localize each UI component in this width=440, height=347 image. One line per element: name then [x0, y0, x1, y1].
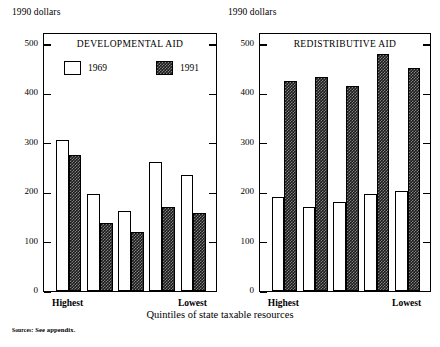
y-tick-mark: [44, 242, 51, 243]
y-tick-mark: [209, 143, 216, 144]
bar-1991-q4: [162, 207, 175, 291]
y-axis-tick-label: 0: [228, 285, 254, 295]
bar-1991-lowest: [408, 68, 421, 291]
bar-1991-q3: [131, 232, 144, 291]
y-tick-mark: [423, 193, 430, 194]
legend-item-1991: 1991: [156, 61, 199, 75]
bar-1991-q2: [100, 223, 113, 291]
bar-1991-lowest: [193, 213, 206, 291]
y-tick-mark: [209, 242, 216, 243]
chart-panel-developmental-aid: DEVELOPMENTAL AID 19691991: [43, 33, 217, 292]
source-note: Sources: See appendix.: [12, 326, 75, 333]
x-category-label: Highest: [33, 298, 103, 308]
bar-1991-highest: [69, 155, 82, 291]
y-axis-tick-label: 0: [12, 285, 38, 295]
figure: 1990 dollars DEVELOPMENTAL AID 19691991 …: [0, 0, 440, 347]
y-axis-units-right: 1990 dollars: [228, 7, 276, 17]
y-tick-mark: [423, 143, 430, 144]
chart-panel-redistributive-aid: REDISTRIBUTIVE AID: [259, 33, 431, 292]
y-axis-tick-label: 200: [12, 186, 38, 196]
y-axis-tick-label: 400: [228, 87, 254, 97]
y-axis-tick-label: 300: [228, 137, 254, 147]
y-axis-tick-label: 500: [12, 38, 38, 48]
y-axis-tick-label: 500: [228, 38, 254, 48]
legend-label: 1991: [180, 63, 199, 73]
y-tick-mark: [44, 193, 51, 194]
y-tick-mark: [44, 94, 51, 95]
legend-label: 1969: [88, 63, 107, 73]
y-axis-tick-label: 100: [228, 236, 254, 246]
chart-title-left: DEVELOPMENTAL AID: [44, 39, 216, 49]
y-tick-mark: [423, 94, 430, 95]
bar-1991-highest: [284, 81, 297, 291]
legend-item-1969: 1969: [64, 61, 107, 75]
y-tick-mark: [423, 242, 430, 243]
y-tick-mark: [209, 44, 216, 45]
y-axis-units-left: 1990 dollars: [12, 7, 60, 17]
legend-swatch-open-white: [64, 61, 81, 75]
y-tick-mark: [260, 44, 267, 45]
bar-1969-highest: [272, 197, 285, 291]
bar-1969-q3: [333, 202, 346, 291]
bar-1991-q4: [377, 54, 390, 291]
y-tick-mark: [44, 44, 51, 45]
legend-swatch-dark-checkered: [156, 61, 173, 75]
source-label: Sources: [12, 327, 31, 333]
y-tick-mark: [260, 291, 267, 292]
bar-1991-q2: [315, 77, 328, 291]
y-tick-mark: [260, 143, 267, 144]
x-axis-title: Quintiles of state taxable resources: [0, 309, 440, 320]
y-axis-tick-label: 100: [12, 236, 38, 246]
bar-1969-highest: [56, 140, 69, 291]
bar-1969-q4: [149, 162, 162, 291]
x-category-label: Highest: [248, 298, 318, 308]
y-axis-tick-label: 200: [228, 186, 254, 196]
bar-1969-lowest: [395, 191, 408, 291]
y-tick-mark: [260, 193, 267, 194]
bar-1991-q3: [346, 86, 359, 291]
y-axis-tick-label: 300: [12, 137, 38, 147]
source-body: : See appendix.: [31, 326, 75, 333]
y-tick-mark: [44, 143, 51, 144]
bar-1969-lowest: [181, 175, 194, 291]
bar-1969-q4: [364, 194, 377, 291]
y-tick-mark: [209, 94, 216, 95]
y-tick-mark: [260, 94, 267, 95]
y-tick-mark: [423, 44, 430, 45]
bar-1969-q3: [118, 211, 131, 291]
chart-title-right: REDISTRIBUTIVE AID: [260, 39, 430, 49]
y-axis-tick-label: 400: [12, 87, 38, 97]
x-category-label: Lowest: [157, 298, 227, 308]
x-category-label: Lowest: [372, 298, 440, 308]
bar-1969-q2: [87, 194, 100, 291]
bar-1969-q2: [303, 207, 316, 291]
y-tick-mark: [44, 291, 51, 292]
y-tick-mark: [209, 193, 216, 194]
y-tick-mark: [260, 242, 267, 243]
